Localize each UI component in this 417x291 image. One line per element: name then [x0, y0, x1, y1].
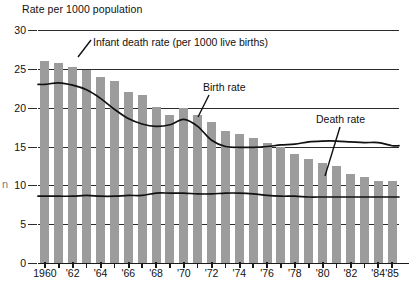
leader-line-death [325, 127, 340, 176]
leader-line-infant [78, 40, 91, 57]
annotation-infant-death-rate: Infant death rate (per 1000 live births) [93, 36, 268, 48]
chart-figure: Rate per 1000 population n 051015202530 … [0, 0, 417, 291]
annotation-birth-rate: Birth rate [203, 81, 246, 93]
leader-line-birth [198, 95, 209, 117]
annotation-death-rate: Death rate [316, 113, 365, 125]
